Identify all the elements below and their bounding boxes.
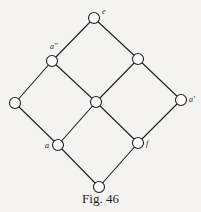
figure-caption: Fig. 46 (0, 191, 201, 207)
edge-a2-l (15, 61, 52, 103)
lattice-nodes: ea''a'af (10, 7, 196, 193)
node-label-a1: a' (189, 95, 195, 104)
edge-a2-c (52, 61, 96, 102)
node-label-e: e (102, 7, 106, 16)
edge-rm-a1 (138, 59, 181, 100)
node-e (89, 13, 100, 24)
edge-l-a (15, 103, 58, 145)
edge-e-a2 (52, 18, 94, 61)
edge-e-rm (94, 18, 138, 59)
node-c (91, 97, 102, 108)
node-a1 (176, 95, 187, 106)
node-a (53, 140, 64, 151)
node-a2 (47, 56, 58, 67)
edge-c-f (96, 102, 138, 143)
edge-c-a (58, 102, 96, 145)
lattice-diagram: ea''a'af (0, 0, 201, 212)
node-label-a: a (45, 141, 49, 150)
node-label-a2: a'' (50, 42, 58, 51)
node-label-f: f (146, 139, 150, 148)
node-l (10, 98, 21, 109)
edge-a1-f (138, 100, 181, 143)
node-rm (133, 54, 144, 65)
edge-rm-c (96, 59, 138, 102)
edge-a-b (58, 145, 99, 187)
edge-f-b (99, 143, 138, 187)
node-f (133, 138, 144, 149)
